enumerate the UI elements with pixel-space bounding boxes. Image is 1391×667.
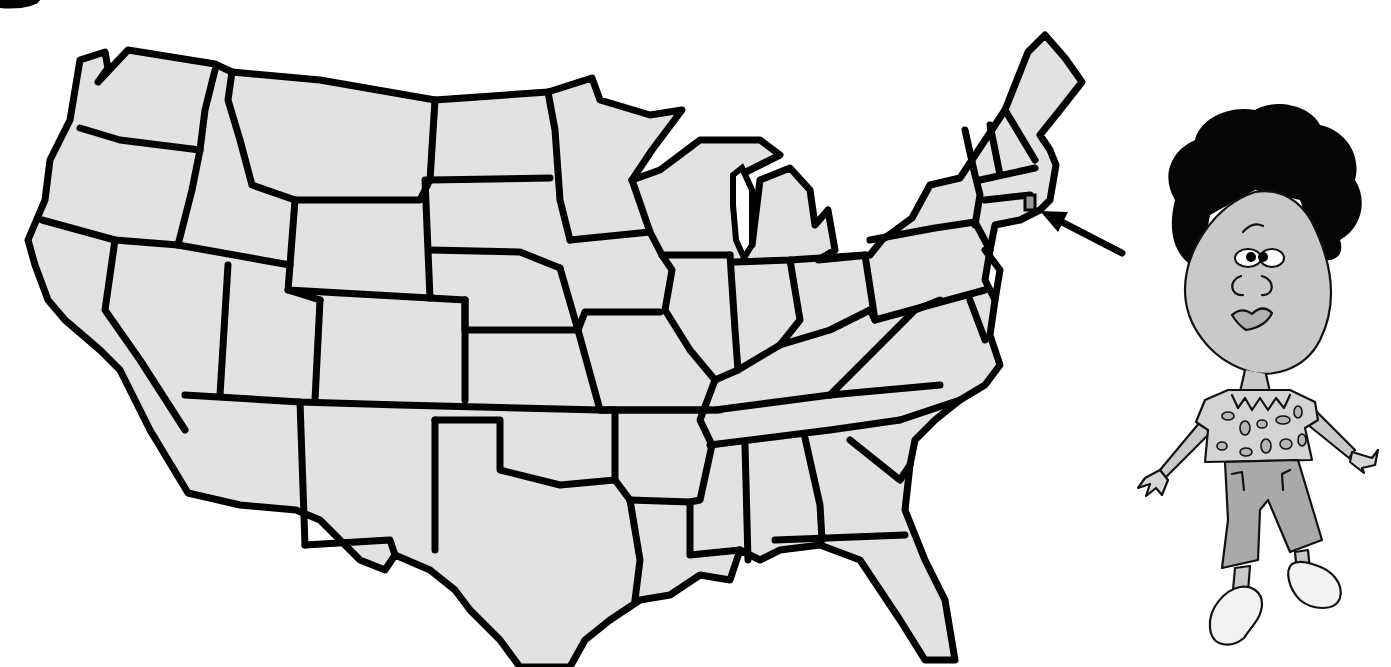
character-eye-right [1258,252,1268,262]
corner-fragment [0,0,40,9]
character-shoe-left [1210,587,1262,645]
lake-michigan [733,168,752,258]
character-shoe-right [1288,562,1340,608]
highlighted-state-rhode-island [1025,195,1035,210]
arrow-pointer-icon [1040,211,1122,253]
us-outline-map [0,0,1391,667]
map-illustration [0,0,1391,667]
character-eye-left [1246,252,1256,262]
cartoon-character [1138,104,1378,644]
